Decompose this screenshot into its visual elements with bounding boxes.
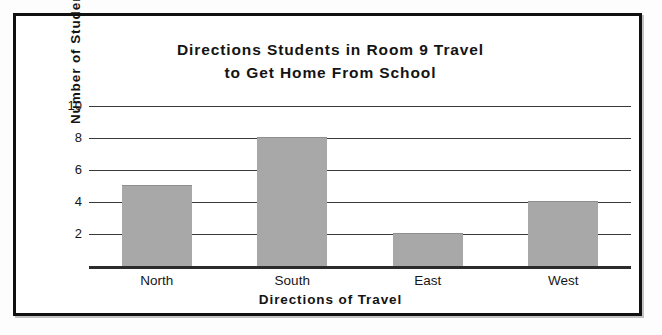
bar-south: [257, 137, 327, 266]
gridline: [89, 138, 631, 139]
y-axis-title: Number of Students: [68, 0, 83, 137]
y-axis-tick-label: 6: [52, 163, 82, 176]
chart-frame: Directions Students in Room 9 Travel to …: [13, 13, 642, 316]
chart-title-line-1: Directions Students in Room 9 Travel: [16, 38, 645, 61]
x-axis-title: Directions of Travel: [16, 292, 645, 307]
scanned-page: Directions Students in Room 9 Travel to …: [0, 0, 662, 335]
x-axis-tick-label: South: [225, 274, 361, 288]
gridline: [89, 170, 631, 171]
y-axis-tick-label: 4: [52, 195, 82, 208]
gridline: [89, 106, 631, 107]
x-axis-tick-label: West: [496, 274, 632, 288]
y-axis-tick-label: 8: [52, 131, 82, 144]
chart-title-line-2: to Get Home From School: [16, 61, 645, 84]
x-axis-tick-label: East: [360, 274, 496, 288]
bar-north: [122, 185, 192, 266]
x-axis-line: [89, 266, 631, 269]
y-axis-tick-label: 10: [52, 99, 82, 112]
plot-area: [89, 106, 631, 266]
bar-east: [393, 233, 463, 266]
bar-west: [528, 201, 598, 266]
y-axis-tick-label: 2: [52, 227, 82, 240]
chart-title: Directions Students in Room 9 Travel to …: [16, 38, 645, 84]
x-axis-tick-label: North: [89, 274, 225, 288]
